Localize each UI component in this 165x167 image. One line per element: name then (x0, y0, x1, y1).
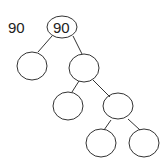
node-right-right (103, 93, 133, 119)
edge-rr-rrl (104, 120, 111, 130)
node-right-right-right (129, 129, 159, 157)
edge-right-rr (93, 80, 110, 97)
edge-right-rl (72, 81, 79, 92)
side-label: 90 (8, 19, 25, 36)
node-left (17, 52, 47, 80)
node-right-left (53, 92, 83, 120)
node-right (69, 54, 99, 82)
edge-rr-rrr (128, 119, 140, 130)
edge-root-left (38, 36, 52, 52)
tree-diagram (0, 0, 165, 167)
node-right-right-left (86, 129, 116, 157)
root-node-value: 90 (53, 19, 70, 36)
edge-root-right (73, 36, 82, 54)
